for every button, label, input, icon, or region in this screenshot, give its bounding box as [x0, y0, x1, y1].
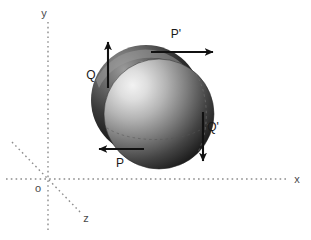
force-q-prime-label: Q'	[207, 120, 219, 134]
force-p-label: P	[116, 156, 124, 170]
force-q-label: Q	[86, 68, 95, 82]
y-axis-label: y	[41, 7, 47, 19]
spheres-group	[91, 45, 214, 169]
sphere-force-diagram: y x z o P' P	[0, 0, 311, 240]
z-axis-line	[12, 142, 82, 214]
origin-label: o	[35, 182, 41, 194]
front-sphere	[104, 59, 214, 169]
figure-container: y x z o P' P	[0, 0, 311, 240]
force-p-prime-label: P'	[171, 27, 181, 41]
z-axis-label: z	[83, 212, 89, 224]
x-axis-label: x	[294, 173, 300, 185]
